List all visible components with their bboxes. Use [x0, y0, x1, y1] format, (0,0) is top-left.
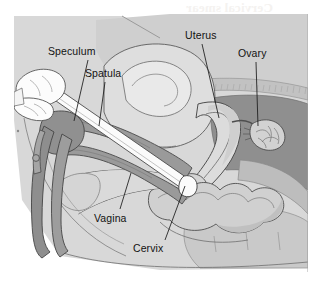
- scan-speck: [17, 130, 19, 132]
- label-speculum: Speculum: [48, 46, 96, 57]
- figure-cervical-smear: Cervical smear: [0, 0, 322, 291]
- spatula-tip: [179, 176, 197, 197]
- label-cervix: Cervix: [133, 243, 163, 254]
- label-vagina: Vagina: [94, 213, 127, 224]
- label-spatula: Spatula: [85, 68, 121, 79]
- label-uterus: Uterus: [185, 30, 217, 41]
- speculum-thumbscrew: [33, 155, 40, 162]
- label-ovary: Ovary: [238, 48, 267, 59]
